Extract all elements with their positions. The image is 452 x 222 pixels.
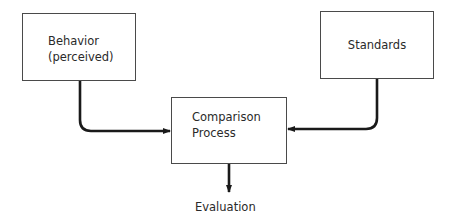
- standards-label: Standards: [321, 37, 433, 53]
- arrow-standards-to-comparison: [288, 79, 377, 129]
- comparison-process-node: Comparison Process: [171, 97, 287, 164]
- perceived-label: (perceived): [48, 49, 114, 65]
- behavior-perceived-node: Behavior (perceived): [22, 13, 136, 81]
- arrow-behavior-to-comparison: [80, 81, 170, 131]
- comparison-label: Comparison: [192, 109, 261, 125]
- process-label: Process: [192, 125, 261, 141]
- behavior-label: Behavior: [48, 33, 114, 49]
- evaluation-label: Evaluation: [195, 199, 256, 215]
- standards-node: Standards: [320, 11, 434, 79]
